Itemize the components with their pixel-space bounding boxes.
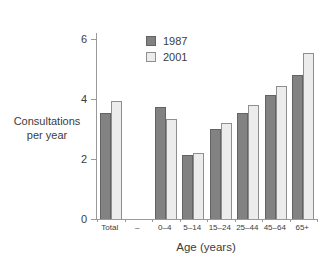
x-tick-6 — [262, 219, 263, 222]
x-category-label-total: Total — [96, 223, 124, 232]
x-category-label-65plus: 65+ — [289, 223, 317, 232]
legend-swatch-2001 — [146, 52, 156, 62]
legend-swatch-1987 — [146, 36, 156, 46]
bar-1987-total — [100, 113, 111, 220]
x-tick-5 — [235, 219, 236, 222]
bar-1987-25-44 — [237, 113, 248, 220]
x-tick-3 — [180, 219, 181, 222]
legend-item-1987: 1987 — [146, 33, 187, 49]
x-tick-1 — [125, 219, 126, 222]
y-tick-4 — [91, 99, 96, 100]
y-axis-title-line1: Consultations — [4, 114, 90, 128]
bar-1987-15-24 — [210, 129, 221, 219]
x-category-label-0-4: 0–4 — [151, 223, 179, 232]
x-category-label-5-14: 5–14 — [179, 223, 207, 232]
y-tick-2 — [91, 159, 96, 160]
y-tick-label-0: 0 — [67, 212, 87, 226]
x-category-label-25-44: 25–44 — [234, 223, 262, 232]
bar-1987-0-4 — [155, 107, 166, 220]
y-tick-6 — [91, 39, 96, 40]
x-tick-0 — [97, 219, 98, 222]
x-axis-category-labels: Total–0–45–1415–2425–4445–6465+ — [96, 223, 316, 232]
legend-label-1987: 1987 — [163, 35, 187, 47]
y-axis-title: Consultations per year — [4, 114, 90, 142]
bar-chart-figure: Consultations per year 0246 Total–0–45–1… — [0, 0, 321, 272]
x-tick-8 — [317, 219, 318, 222]
bar-1987-65plus — [292, 75, 303, 219]
x-tick-4 — [207, 219, 208, 222]
y-tick-label-4: 4 — [67, 92, 87, 106]
x-tick-7 — [290, 219, 291, 222]
bar-1987-45-64 — [265, 95, 276, 220]
legend: 1987 2001 — [146, 33, 187, 65]
bar-2001-25-44 — [248, 105, 259, 219]
x-tick-2 — [152, 219, 153, 222]
plot-area: 0246 — [96, 33, 317, 220]
bar-2001-45-64 — [276, 86, 287, 220]
bar-2001-total — [111, 101, 122, 220]
x-category-label-45-64: 45–64 — [261, 223, 289, 232]
x-axis-title: Age (years) — [96, 241, 316, 253]
bar-2001-15-24 — [221, 123, 232, 219]
x-category-label--: – — [124, 223, 152, 232]
y-tick-label-6: 6 — [67, 32, 87, 46]
x-category-label-15-24: 15–24 — [206, 223, 234, 232]
bar-2001-65plus — [303, 53, 314, 220]
bar-2001-0-4 — [166, 119, 177, 220]
legend-label-2001: 2001 — [163, 51, 187, 63]
bar-2001-5-14 — [193, 153, 204, 219]
y-tick-0 — [91, 219, 96, 220]
y-tick-label-2: 2 — [67, 152, 87, 166]
bar-1987-5-14 — [182, 155, 193, 220]
legend-item-2001: 2001 — [146, 49, 187, 65]
y-axis-title-line2: per year — [4, 128, 90, 142]
